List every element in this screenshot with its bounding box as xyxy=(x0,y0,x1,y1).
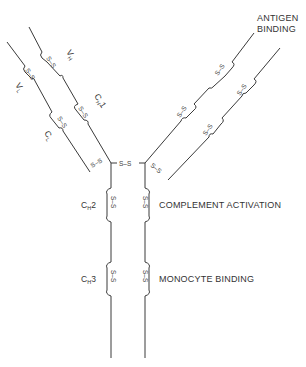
ch2-left-disulfide: S–S xyxy=(110,196,117,209)
vl-right-disulfide: S–S xyxy=(235,82,248,97)
ch3-right-disulfide: S–S xyxy=(142,270,149,283)
complement-activation-label: COMPLEMENT ACTIVATION xyxy=(159,200,281,210)
ch1-left-disulfide: S–S xyxy=(77,105,90,120)
svg-text:CH1: CH1 xyxy=(91,92,108,111)
cl-label: CL xyxy=(41,129,55,143)
svg-text:VH: VH xyxy=(63,48,77,62)
vl-label: VL xyxy=(12,81,26,94)
monocyte-binding-label: MONOCYTE BINDING xyxy=(159,274,254,284)
vh-right-disulfide: S–S xyxy=(213,62,226,77)
cl-right-disulfide: S–S xyxy=(201,122,214,137)
ch2-label: CH2 xyxy=(81,200,96,211)
antibody-diagram: S–S S–S S–S S–S S–S S–S S–S S–S S–S S–S … xyxy=(0,0,306,367)
svg-text:VL: VL xyxy=(12,81,26,94)
ch1-right-disulfide: S–S xyxy=(175,104,188,119)
right-heavy-chain-arm xyxy=(145,33,254,163)
ch1-label: CH1 xyxy=(91,92,108,111)
ch3-left-disulfide: S–S xyxy=(110,270,117,283)
hinge-disulfide-label: S–S xyxy=(119,160,132,167)
ch2-right-disulfide: S–S xyxy=(142,196,149,209)
heavy-light-right-disulfide: S–S xyxy=(149,161,163,175)
left-heavy-chain-stem xyxy=(107,163,112,358)
svg-text:CL: CL xyxy=(41,129,55,143)
antigen-binding-label-line2: BINDING xyxy=(257,24,296,34)
heavy-light-left-disulfide: S–S xyxy=(89,156,104,169)
right-heavy-chain-stem xyxy=(145,163,150,358)
antigen-binding-label-line1: ANTIGEN xyxy=(257,13,298,23)
ch3-label: CH3 xyxy=(81,274,96,285)
vh-label: VH xyxy=(63,48,77,62)
